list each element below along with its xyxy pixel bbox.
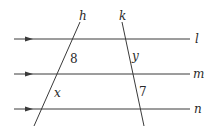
- label-h: h: [79, 9, 87, 23]
- segment-label-x: x: [54, 86, 61, 100]
- arrow-icon: [25, 37, 33, 42]
- transversal-h: h: [34, 9, 87, 126]
- label-n: n: [194, 102, 202, 116]
- label-k: k: [119, 9, 126, 23]
- parallel-line-l: l: [14, 32, 199, 46]
- diagram-canvas: l m n h k 8 x y 7: [0, 0, 212, 134]
- transversal-k: k: [119, 9, 144, 126]
- diagram-svg: l m n h k 8 x y 7: [0, 0, 212, 134]
- arrow-icon: [25, 107, 33, 112]
- segment-label-y: y: [131, 49, 139, 63]
- segment-label-8: 8: [70, 52, 78, 66]
- parallel-line-n: n: [14, 102, 202, 116]
- label-l: l: [195, 32, 199, 46]
- label-m: m: [193, 67, 204, 81]
- arrow-icon: [25, 72, 33, 77]
- segment-label-7: 7: [139, 85, 147, 99]
- parallel-line-m: m: [14, 67, 204, 81]
